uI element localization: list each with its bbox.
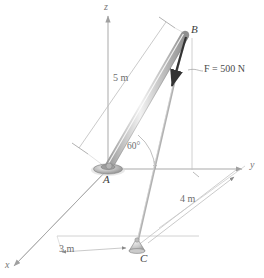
point-label-A: A [103,174,110,185]
force-leader [188,69,203,71]
axis-label-x: x [5,260,9,270]
point-label-B: B [191,24,198,35]
point-label-C: C [140,253,147,264]
dimension-label-3m: 3 m [59,244,74,254]
statics-figure: z y x A B C 5 m 4 m 3 m 60° F = 500 N [0,0,264,278]
axis-label-y: y [250,160,254,170]
rod-AB [106,34,188,170]
axis-label-z: z [104,2,108,12]
angle-label-60: 60° [127,142,140,152]
angle-arc-60 [138,135,155,169]
force-label: F = 500 N [204,64,245,74]
ground-plane-lines [18,169,236,262]
dimension-label-5m: 5 m [113,73,128,83]
dimension-4m [148,166,245,243]
dimension-label-4m: 4 m [180,194,195,204]
figure-canvas [0,0,264,278]
